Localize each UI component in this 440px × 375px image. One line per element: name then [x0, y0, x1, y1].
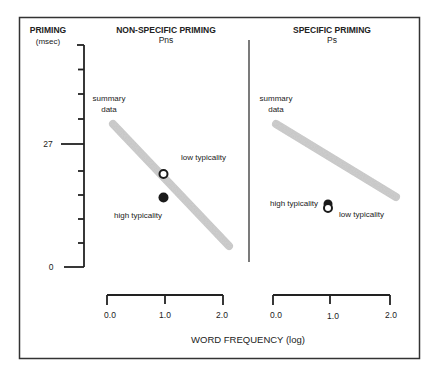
right-x-tick-1: 1.0 — [327, 311, 339, 321]
left-summary-band-texture — [113, 124, 229, 246]
left-panel-subtitle: Pns — [159, 35, 174, 45]
left-summary-label-1: summary — [93, 94, 126, 103]
right-summary-label-1: summary — [260, 94, 293, 103]
left-x-tick-1: 1.0 — [159, 310, 171, 320]
right-low-typicality-marker — [324, 204, 332, 212]
right-high-typicality-label: high typicality — [270, 199, 318, 208]
right-panel-title: SPECIFIC PRIMING — [293, 25, 371, 35]
right-x-tick-0: 0.0 — [270, 310, 282, 320]
left-low-typicality-marker — [160, 170, 168, 178]
right-x-tick-2: 2.0 — [385, 310, 397, 320]
right-x-axis — [273, 295, 390, 305]
y-tick-label-27: 27 — [43, 139, 53, 149]
x-axis-title: WORD FREQUENCY (log) — [191, 334, 305, 345]
left-x-tick-0: 0.0 — [104, 310, 116, 320]
left-high-typicality-marker — [159, 193, 169, 203]
right-low-typicality-label: low typicality — [339, 210, 384, 219]
right-panel-subtitle: Ps — [327, 35, 337, 45]
left-summary-label-2: data — [101, 105, 117, 114]
left-high-typicality-label: high typicality — [114, 211, 162, 220]
left-panel-title: NON-SPECIFIC PRIMING — [116, 25, 216, 35]
right-summary-label-2: data — [268, 105, 284, 114]
y-tick-label-0: 0 — [49, 262, 54, 272]
y-axis-title: PRIMING — [30, 25, 67, 35]
left-x-tick-2: 2.0 — [216, 310, 228, 320]
left-x-axis — [107, 295, 223, 305]
figure: PRIMING (msec) 27 0 NON-SPECIFIC PRIMING… — [0, 0, 440, 375]
y-axis-unit: (msec) — [36, 37, 61, 46]
y-axis — [61, 45, 84, 267]
right-summary-band-texture — [276, 124, 396, 197]
left-low-typicality-label: low typicality — [181, 153, 226, 162]
